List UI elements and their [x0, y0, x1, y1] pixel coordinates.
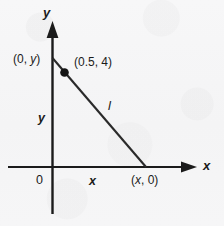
x-axis-arrowhead [181, 161, 197, 172]
y-intercept-label: (0, y) [13, 53, 40, 65]
horizontal-leg-label: x [89, 175, 96, 188]
x-axis-label: x [203, 159, 210, 172]
coordinate-plane-drawing [0, 0, 224, 226]
origin-label: 0 [36, 174, 43, 187]
y-axis-label: y [43, 6, 50, 19]
vertical-leg-label: y [38, 112, 45, 125]
marked-point-label: (0.5, 4) [74, 56, 112, 68]
x-intercept-label: (x, 0) [131, 174, 158, 186]
marked-point-dot [60, 68, 69, 77]
y-axis-arrowhead [47, 21, 59, 38]
line-label: l [108, 99, 111, 112]
figure-canvas: y x (0, y) (0.5, 4) y l 0 x (x, 0) [0, 0, 224, 226]
